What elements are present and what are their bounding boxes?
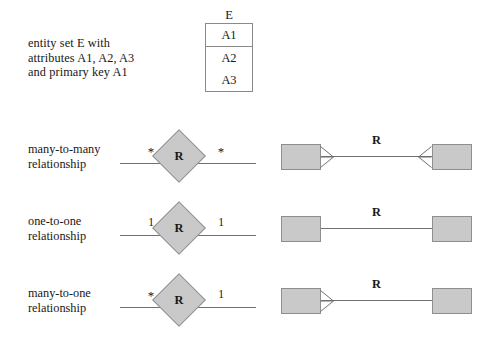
entity-box-right <box>432 216 472 242</box>
connector-line <box>190 307 256 308</box>
row-caption: many-to-one relationship <box>28 286 91 315</box>
relationship-label: R <box>321 205 432 220</box>
entity-attribute: A2 <box>206 47 252 69</box>
row-caption: one-to-one relationship <box>28 214 86 243</box>
right-cardinality-label: 1 <box>214 216 228 228</box>
connector-line <box>321 156 432 157</box>
left-cardinality-label: * <box>144 146 158 158</box>
relationship-label: R <box>160 209 198 247</box>
entity-caption: entity set E with attributes A1, A2, A3 … <box>28 36 134 80</box>
relationship-label: R <box>321 277 432 292</box>
entity-name-label: E <box>205 8 253 23</box>
er-diamond-notation: R * * <box>118 128 258 200</box>
connector-line <box>321 228 432 229</box>
entity-box-right <box>432 144 472 170</box>
uml-crowfoot-notation: R <box>275 272 490 344</box>
uml-crowfoot-notation: R <box>275 200 490 272</box>
relationship-label: R <box>160 281 198 319</box>
connector-line <box>321 300 432 301</box>
crowfoot-icon <box>320 288 334 314</box>
relationship-label: R <box>160 137 198 175</box>
connector-line <box>190 235 256 236</box>
left-cardinality-label: * <box>144 290 158 302</box>
crowfoot-icon <box>320 144 334 170</box>
right-cardinality-label: * <box>214 146 228 158</box>
relationship-row: one-to-one relationship R 1 1 R <box>0 200 496 272</box>
er-notation-figure: entity set E with attributes A1, A2, A3 … <box>0 0 496 346</box>
entity-box-left <box>281 144 321 170</box>
relationship-row: many-to-one relationship R * 1 R <box>0 272 496 344</box>
left-cardinality-label: 1 <box>144 216 158 228</box>
entity-box-left <box>281 288 321 314</box>
entity-box-left <box>281 216 321 242</box>
right-cardinality-label: 1 <box>214 288 228 300</box>
crowfoot-icon <box>418 144 432 170</box>
relationship-label: R <box>321 133 432 148</box>
entity-box-right <box>432 288 472 314</box>
entity-attribute-box: A1 A2 A3 <box>205 23 253 92</box>
er-diamond-notation: R * 1 <box>118 272 258 344</box>
er-diamond-notation: R 1 1 <box>118 200 258 272</box>
entity-set-diagram: E A1 A2 A3 <box>205 8 253 92</box>
entity-primary-key-attribute: A1 <box>206 24 252 47</box>
connector-line <box>190 163 256 164</box>
row-caption: many-to-many relationship <box>28 142 100 171</box>
uml-crowfoot-notation: R <box>275 128 490 200</box>
entity-attribute: A3 <box>206 69 252 91</box>
relationship-row: many-to-many relationship R * * R <box>0 128 496 200</box>
